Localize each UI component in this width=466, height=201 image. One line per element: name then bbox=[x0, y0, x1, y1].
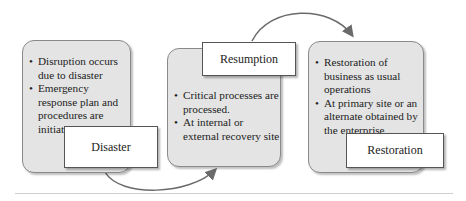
label-text: Resumption bbox=[220, 52, 278, 67]
restoration-bullets: Restoration of business as usual operati… bbox=[315, 56, 425, 137]
phase-label-resumption: Resumption bbox=[202, 42, 296, 76]
arrow-resumption-to-restoration bbox=[252, 13, 352, 41]
disaster-bullets: Disruption occurs due to disaster Emerge… bbox=[29, 55, 129, 136]
divider-line bbox=[15, 193, 453, 194]
bullet-item: At primary site or an alternate obtained… bbox=[315, 97, 425, 138]
bullet-item: Critical processes are processed. bbox=[174, 89, 280, 116]
label-text: Restoration bbox=[367, 143, 422, 158]
arrow-disaster-to-resumption bbox=[105, 170, 215, 190]
bullet-item: Disruption occurs due to disaster bbox=[29, 55, 129, 82]
disaster-recovery-flow-diagram: Disruption occurs due to disaster Emerge… bbox=[0, 0, 466, 201]
bullet-item: Restoration of business as usual operati… bbox=[315, 56, 425, 97]
label-text: Disaster bbox=[91, 140, 130, 155]
phase-label-disaster: Disaster bbox=[64, 126, 158, 168]
bullet-item: At internal or external recovery site bbox=[174, 116, 280, 143]
phase-label-restoration: Restoration bbox=[346, 133, 444, 168]
resumption-bullets: Critical processes are processed. At int… bbox=[174, 89, 280, 143]
